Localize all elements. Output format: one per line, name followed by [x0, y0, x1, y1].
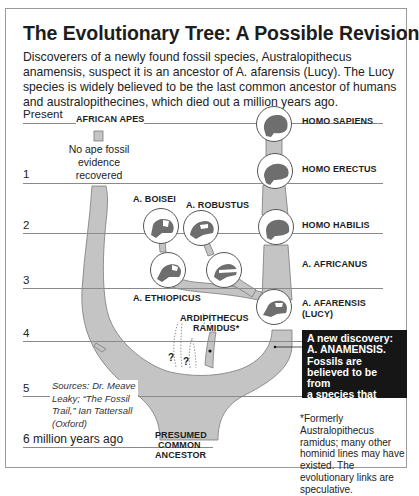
- label-a-boisei: A. BOISEI: [133, 194, 176, 204]
- label-ardipithecus-line2: RAMIDUS*: [193, 323, 239, 333]
- sources-note: Sources: Dr. Meave Leaky; “The Fossil Tr…: [50, 380, 138, 430]
- label-homo-erectus: HOMO ERECTUS: [302, 164, 377, 174]
- skull-a-africanus-icon: [206, 252, 242, 288]
- unknown-lineage-mark-2: ?: [183, 356, 189, 367]
- timeline-label-4: 4: [23, 327, 29, 339]
- ape-note-line1: No ape fossil: [62, 143, 136, 156]
- skull-homo-erectus-icon: [257, 153, 293, 189]
- sources-line3: Trail,” Ian Tattersall: [52, 405, 136, 418]
- label-common-ancestor-line3: ANCESTOR: [155, 450, 206, 460]
- timeline-label-2: 2: [23, 219, 29, 231]
- timeline-label-1: 1: [23, 168, 29, 180]
- label-homo-habilis: HOMO HABILIS: [302, 220, 370, 230]
- skull-a-robustus-icon: [183, 210, 219, 246]
- timeline-line-1: [23, 183, 383, 184]
- label-common-ancestor-line2: COMMON: [158, 440, 201, 450]
- ape-note: No ape fossil evidence recovered: [62, 143, 136, 182]
- sources-line2: Leaky; “The Fossil: [52, 393, 136, 406]
- label-ardipithecus-line1: ARDIPITHECUS: [180, 313, 249, 323]
- skull-homo-habilis-icon: [258, 209, 294, 245]
- label-common-ancestor-line1: PRESUMED: [155, 430, 207, 440]
- unknown-lineage-mark-1: ?: [168, 352, 174, 363]
- ape-note-line3: recovered: [62, 169, 136, 182]
- timeline-line-3: [23, 288, 383, 289]
- timeline-line-4: [23, 341, 303, 342]
- label-homo-sapiens: HOMO SAPIENS: [302, 116, 373, 126]
- label-a-afarensis: A. AFARENSIS: [302, 298, 366, 308]
- label-a-robustus: A. ROBUSTUS: [186, 200, 249, 210]
- sources-line1: Sources: Dr. Meave: [52, 380, 136, 393]
- timeline-label-present: Present: [23, 108, 63, 120]
- anamensis-callout: A new discovery: A. ANAMENSIS. Fossils a…: [302, 330, 407, 398]
- callout-line2: A. ANAMENSIS.: [307, 344, 402, 355]
- callout-line4: believed to be from: [307, 367, 402, 390]
- skull-homo-sapiens-icon: [256, 106, 292, 142]
- label-african-apes: AFRICAN APES: [76, 114, 144, 124]
- timeline-label-3: 3: [23, 274, 29, 286]
- label-a-ethiopicus: A. ETHIOPICUS: [133, 293, 201, 303]
- label-a-afarensis-alias: (LUCY): [302, 309, 333, 319]
- skull-a-afarensis-icon: [256, 289, 292, 325]
- skull-a-boisei-icon: [143, 208, 179, 244]
- timeline-label-5: 5: [23, 382, 29, 394]
- footnote: *Formerly Australopithecus ramidus; many…: [300, 413, 408, 496]
- ape-note-line2: evidence: [62, 156, 136, 169]
- timeline-label-6: 6 million years ago: [23, 432, 123, 446]
- sources-line4: (Oxford): [52, 418, 136, 431]
- skull-a-ethiopicus-icon: [150, 252, 186, 288]
- label-a-africanus: A. AFRICANUS: [302, 259, 367, 269]
